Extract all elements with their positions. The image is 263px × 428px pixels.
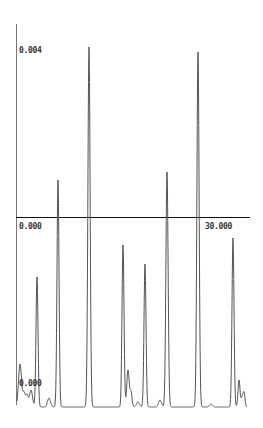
chromatogram-chart [0, 0, 263, 428]
x-axis-origin-label: 0.000 [19, 222, 42, 231]
y-axis-top-label: 0.004 [19, 46, 42, 55]
x-axis-right-label: 30.000 [205, 222, 232, 231]
y-axis-bottom-label: 0.000 [19, 379, 42, 388]
